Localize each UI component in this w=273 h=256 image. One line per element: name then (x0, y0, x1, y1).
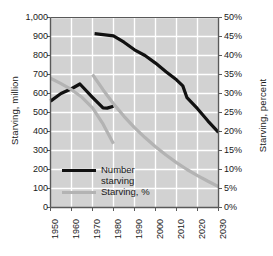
y-tick-label: 500 (33, 107, 48, 117)
y2-tick-label: 45% (224, 31, 242, 41)
y2-tick-label: 0% (224, 202, 237, 212)
y2-tick-label: 20% (224, 126, 242, 136)
x-tick-label: 2010 (176, 219, 186, 256)
y2-tick-label: 25% (224, 107, 242, 117)
y-tick-label: 400 (33, 126, 48, 136)
x-tick-label: 1990 (134, 219, 144, 256)
legend-label-2: Starving, % (101, 187, 150, 198)
x-tick-label: 1980 (113, 219, 123, 256)
y2-tick-label: 10% (224, 164, 242, 174)
y-tick-label: 100 (33, 183, 48, 193)
x-tick-label: 2020 (197, 219, 207, 256)
legend-label-line1: Number (101, 165, 135, 176)
x-tick-label: 2000 (155, 219, 165, 256)
x-tick-label: 1970 (92, 219, 102, 256)
y2-tick-label: 5% (224, 183, 237, 193)
y-tick-label: 900 (33, 31, 48, 41)
y2-tick-label: 30% (224, 88, 242, 98)
legend-label-1: Numberstarving (101, 165, 135, 186)
y2-tick-label: 50% (224, 12, 242, 22)
y2-tick-label: 40% (224, 50, 242, 60)
legend-label-line2: starving (101, 176, 135, 187)
x-tick-label: 2030 (218, 219, 228, 256)
y-tick-label: 600 (33, 88, 48, 98)
y2-tick-label: 35% (224, 69, 242, 79)
y-tick-label: 200 (33, 164, 48, 174)
y-tick-label: 0 (43, 202, 48, 212)
y2-tick-label: 15% (224, 145, 242, 155)
x-tick-label: 1960 (71, 219, 81, 256)
y-tick-label: 700 (33, 69, 48, 79)
y-tick-label: 1,000 (25, 12, 48, 22)
starving-line-chart: Starving, million Starving, percent 0100… (0, 0, 273, 256)
y-tick-label: 300 (33, 145, 48, 155)
x-tick-label: 1950 (50, 219, 60, 256)
y-tick-label: 800 (33, 50, 48, 60)
legend-label-line1: Starving, % (101, 187, 150, 198)
